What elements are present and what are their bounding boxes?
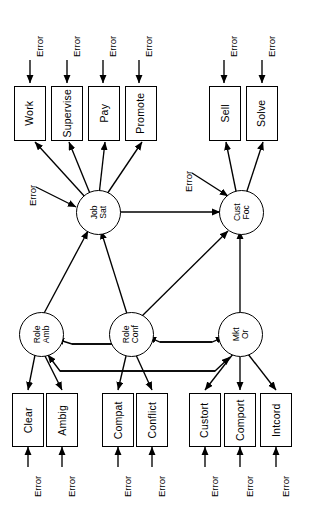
error-label-promote: Error [144, 36, 154, 57]
latent-circle-job-sat[interactable]: JobSat [76, 190, 121, 235]
error-label-cust-foc: Error [184, 171, 194, 192]
latent-label-mkt-or: MktOr [231, 328, 250, 342]
observed-label-promote: Promote [136, 93, 147, 134]
observed-box-promote[interactable]: Promote [125, 86, 157, 141]
arrow-jobsat-promote [105, 142, 142, 197]
arrow-custfoc-solve [245, 142, 263, 197]
corr-roleamb-mktor-b [60, 357, 230, 371]
observed-box-solve[interactable]: Solve [246, 86, 278, 141]
latent-label-role-amb: RoleAmb [32, 326, 51, 344]
error-label-supervise: Error [72, 36, 82, 57]
observed-label-comport: Comport [235, 399, 246, 441]
diagram-arrows-layer [0, 0, 312, 530]
observed-box-conflict[interactable]: Conflict [136, 393, 168, 447]
error-label-custori: Error [210, 476, 220, 497]
observed-label-work: Work [25, 101, 36, 126]
observed-label-ambig: Ambig [57, 405, 68, 436]
observed-box-clear[interactable]: Clear [12, 393, 44, 447]
latent-circle-role-conf[interactable]: RoleConf [109, 312, 154, 357]
latent-circle-cust-foc[interactable]: CustFoc [219, 190, 264, 235]
error-label-comport: Error [245, 476, 255, 497]
observed-box-work[interactable]: Work [14, 86, 46, 141]
error-label-job-sat: Error [28, 185, 38, 206]
latent-label-job-sat-line1: Job [88, 206, 98, 220]
arrow-custfoc-sell [226, 142, 237, 196]
latent-label-job-sat: JobSat [89, 206, 108, 220]
observed-label-solve: Solve [257, 100, 268, 127]
arrow-jobsat-pay [99, 142, 105, 195]
arrow-roleamb-jobsat [42, 231, 88, 317]
latent-label-mkt-or-line2: Or [240, 330, 250, 340]
latent-label-role-amb-line2: Amb [41, 326, 51, 344]
latent-label-cust-foc-line2: Foc [240, 205, 250, 219]
arrow-roleconf-conflict [136, 355, 152, 390]
error-label-clear: Error [33, 476, 43, 497]
latent-circle-mkt-or[interactable]: MktOr [218, 312, 263, 357]
arrow-mktor-intcord [248, 354, 276, 390]
observed-box-sell[interactable]: Sell [209, 86, 241, 141]
arrow-roleamb-clear [28, 355, 35, 390]
error-label-intcord: Error [281, 476, 291, 497]
arrow-err-custfoc [192, 173, 228, 196]
arrow-roleconf-custfoc [140, 231, 228, 318]
corr-roleamb-mktor-a [48, 355, 215, 371]
observed-label-supervise: Supervise [62, 89, 73, 138]
error-label-sell: Error [229, 36, 239, 57]
arrow-mktor-custori [205, 354, 233, 390]
observed-box-comport[interactable]: Comport [224, 393, 256, 447]
error-label-work: Error [35, 36, 45, 57]
observed-label-intcord: Intcord [271, 403, 282, 437]
error-label-conflict: Error [157, 476, 167, 497]
observed-label-compat: Compat [113, 401, 124, 439]
observed-box-ambig[interactable]: Ambig [46, 393, 78, 447]
observed-box-pay[interactable]: Pay [88, 86, 120, 141]
observed-box-compat[interactable]: Compat [102, 393, 134, 447]
observed-label-clear: Clear [23, 407, 34, 433]
latent-label-mkt-or-line1: Mkt [230, 328, 240, 342]
corr-roleamb-roleconf-a [56, 339, 112, 344]
latent-label-cust-foc-line1: Cust [231, 204, 241, 222]
path-diagram-canvas: Error Error Error Error Error Error Work… [0, 0, 312, 530]
latent-label-job-sat-line2: Sat [97, 206, 107, 219]
latent-label-cust-foc: CustFoc [232, 204, 251, 222]
latent-label-role-conf-line2: Conf [131, 325, 141, 343]
observed-box-intcord[interactable]: Intcord [260, 393, 292, 447]
arrow-roleconf-jobsat [101, 231, 128, 317]
corr-roleconf-mktor-b [160, 337, 224, 342]
error-label-pay: Error [108, 36, 118, 57]
arrow-roleconf-compat [118, 356, 126, 390]
error-label-solve: Error [267, 36, 277, 57]
latent-circle-role-amb[interactable]: RoleAmb [19, 312, 64, 357]
corr-roleconf-mktor-a [148, 337, 212, 342]
observed-label-custori: Custort [200, 402, 211, 437]
arrow-err-jobsat [36, 187, 76, 207]
observed-box-supervise[interactable]: Supervise [51, 86, 83, 141]
arrow-jobsat-supervise [69, 142, 91, 196]
observed-label-conflict: Conflict [147, 402, 158, 439]
latent-label-role-amb-line1: Role [31, 326, 41, 344]
arrow-roleamb-ambig [45, 356, 62, 390]
observed-label-sell: Sell [220, 104, 231, 122]
observed-box-custori[interactable]: Custort [189, 393, 221, 447]
error-label-compat: Error [123, 476, 133, 497]
observed-label-pay: Pay [99, 104, 110, 123]
error-label-ambig: Error [67, 476, 77, 497]
latent-label-role-conf: RoleConf [122, 325, 141, 343]
